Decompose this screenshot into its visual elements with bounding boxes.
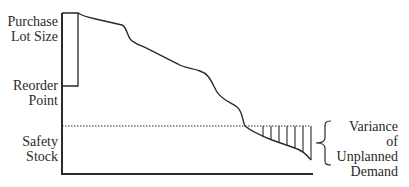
variance-brace-icon: [316, 121, 331, 165]
reorder-point-label: Reorder Point: [0, 78, 58, 108]
variance-label: Variance of Unplanned Demand: [334, 119, 398, 179]
variance-hatching: [263, 126, 311, 160]
purchase-lot-size-label: Purchase Lot Size: [0, 14, 58, 44]
lot-size-bracket: [62, 13, 78, 86]
safety-stock-label: Safety Stock: [0, 134, 58, 164]
inventory-curve: [78, 13, 311, 160]
